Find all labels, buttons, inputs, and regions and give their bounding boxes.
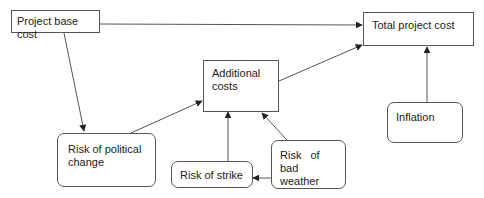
node-risk-political-change: Risk of political change [57,133,156,187]
node-additional-costs: Additional costs [203,60,279,112]
node-inflation: Inflation [387,102,463,143]
node-label: Total project cost [372,19,455,31]
arrow-additional-to-total [279,45,362,81]
node-risk-of-strike: Risk of strike [171,161,253,188]
node-label-line2: costs [212,80,270,93]
node-total-project-cost: Total project cost [363,12,474,46]
node-label-line1: Risk of bad [280,149,337,175]
node-label: Risk of strike [180,169,243,181]
arrow-base-to-total [100,24,362,25]
node-project-base-cost: Project base cost [11,10,100,33]
node-label: Inflation [396,111,435,123]
arrow-political-to-additional [131,101,202,133]
node-label-line1: Risk of political [68,143,145,156]
node-label-line2: change [68,156,145,169]
node-risk-bad-weather: Risk of bad weather [271,140,346,189]
node-label-line1: Additional [212,67,270,80]
node-label-line2: weather [280,175,337,188]
arrow-base-to-political [64,33,84,131]
arrow-weather-to-additional [262,113,287,140]
